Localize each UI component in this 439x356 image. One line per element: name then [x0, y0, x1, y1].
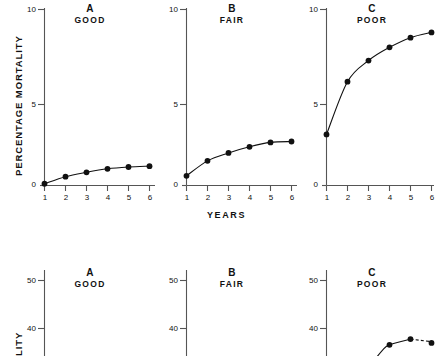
panel-c2-markers: [387, 336, 435, 348]
data-point-marker: [408, 336, 414, 342]
data-point-marker: [387, 342, 393, 348]
data-point-marker: [429, 340, 435, 346]
panel-c2-series-dashed: [411, 339, 432, 342]
panel-c2-series-line: [375, 339, 411, 356]
